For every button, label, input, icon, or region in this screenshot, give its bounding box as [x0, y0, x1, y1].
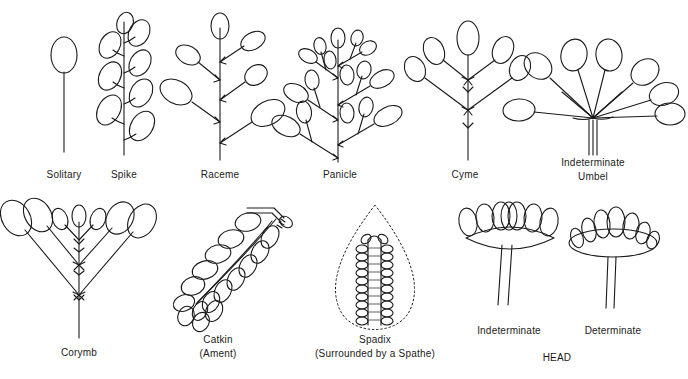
flower — [400, 53, 429, 85]
diagram-catkin — [171, 208, 295, 335]
flower — [172, 41, 203, 69]
flower — [357, 96, 375, 118]
flower — [381, 285, 393, 293]
pedicel — [47, 226, 79, 265]
diagram-cyme — [400, 21, 534, 160]
flower — [381, 309, 393, 317]
flower — [356, 285, 368, 293]
inflorescence-drawing — [0, 0, 688, 379]
peduncle — [614, 257, 616, 308]
flower — [304, 69, 321, 91]
flower — [356, 317, 368, 325]
flower — [357, 38, 379, 58]
inflorescence-figure: Solitary Spike Raceme Panicle Cyme Indet… — [0, 0, 688, 379]
label-spadix: Spadix (Surrounded by a Spathe) — [315, 333, 435, 361]
flower — [339, 64, 355, 85]
bract — [468, 77, 474, 85]
label-cyme: Cyme — [452, 168, 479, 181]
flower — [381, 293, 393, 301]
diagram-spike — [91, 10, 159, 155]
pedicel — [25, 230, 79, 295]
flower — [235, 252, 260, 281]
peduncle — [498, 245, 502, 305]
flower — [558, 37, 590, 74]
diagram-solitary — [51, 37, 77, 152]
diagram-spadix — [335, 205, 414, 330]
flower — [381, 245, 393, 253]
flower — [381, 261, 393, 269]
flower — [190, 258, 220, 282]
diagram-head-determinate — [568, 207, 662, 308]
flower — [295, 100, 313, 124]
label-catkin-line2: (Ament) — [200, 347, 237, 361]
flower — [114, 10, 137, 36]
flower — [17, 193, 58, 237]
flower — [124, 46, 155, 80]
flower — [94, 58, 127, 94]
flower — [376, 232, 390, 245]
bract — [468, 107, 474, 115]
pedicel — [443, 60, 468, 80]
diagram-corymb — [0, 193, 162, 338]
pedicel — [220, 122, 252, 143]
flower — [124, 16, 155, 50]
flower — [247, 238, 272, 267]
flower — [381, 317, 393, 325]
bract — [462, 107, 468, 115]
label-spike: Spike — [111, 168, 137, 181]
flower — [381, 253, 393, 261]
flower — [594, 37, 624, 72]
pedicel — [192, 102, 220, 122]
pedicel — [562, 92, 593, 118]
flower — [646, 79, 682, 110]
pedicel — [220, 82, 245, 100]
pedicel — [593, 100, 651, 118]
flower — [355, 60, 373, 81]
flower — [223, 265, 248, 294]
diagram-raceme — [156, 13, 290, 160]
flower — [502, 98, 535, 122]
pedicel — [593, 92, 622, 118]
flower — [568, 227, 586, 250]
spathe-outline — [335, 205, 414, 330]
diagram-umbel — [502, 37, 685, 155]
flower — [339, 103, 354, 124]
flower — [356, 253, 368, 261]
flower — [501, 202, 517, 230]
catkin-twig — [247, 213, 281, 222]
label-umbel-line1: Indeterminate — [561, 156, 625, 170]
label-head-group: HEAD — [543, 351, 572, 364]
label-raceme: Raceme — [201, 168, 239, 181]
flower — [356, 261, 368, 269]
flower — [644, 229, 661, 250]
branch — [338, 124, 374, 145]
flower — [356, 269, 368, 277]
flower — [296, 46, 320, 67]
flower — [381, 269, 393, 277]
label-solitary: Solitary — [47, 168, 82, 181]
pedicel — [468, 60, 495, 80]
label-corymb: Corymb — [61, 346, 97, 359]
flower — [124, 107, 160, 146]
peduncle — [606, 257, 608, 308]
flower — [241, 60, 272, 89]
label-panicle: Panicle — [323, 168, 357, 181]
peduncle — [508, 245, 512, 305]
branch — [338, 86, 370, 105]
flower — [257, 223, 282, 252]
flower — [381, 277, 393, 285]
flower — [381, 301, 393, 309]
flower — [238, 27, 269, 54]
pedicel — [593, 116, 657, 118]
flower — [51, 37, 77, 73]
label-umbel: Indeterminate Umbel — [561, 156, 625, 184]
flower — [356, 245, 368, 253]
label-spadix-line1: Spadix — [315, 333, 435, 347]
label-catkin-line1: Catkin — [200, 333, 237, 347]
label-catkin: Catkin (Ament) — [200, 333, 237, 361]
pedicel — [79, 232, 133, 295]
flower — [359, 232, 373, 245]
diagram-panicle — [268, 28, 405, 162]
label-spadix-line2: (Surrounded by a Spathe) — [315, 347, 435, 361]
bract — [462, 77, 468, 85]
